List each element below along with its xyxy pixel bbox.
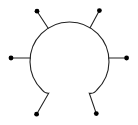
dot-top-right <box>97 8 102 13</box>
spoke-top-left <box>37 11 48 28</box>
circle-body-path <box>30 22 109 114</box>
spoke-top-right <box>90 11 99 28</box>
dot-left <box>9 56 14 61</box>
dot-top-left <box>35 9 40 14</box>
dot-bottom-left <box>34 112 39 117</box>
dot-bottom-right <box>94 111 99 116</box>
open-circle-spoke-diagram <box>0 0 138 125</box>
dot-right <box>124 56 129 61</box>
diagram-canvas <box>0 0 138 125</box>
